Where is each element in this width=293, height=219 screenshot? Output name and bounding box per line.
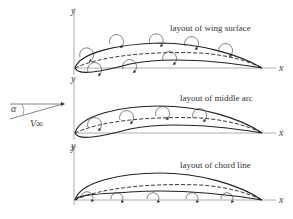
- panel-title: layout of chord line: [180, 160, 251, 170]
- panel-middle-arc: y x y layout of middle arc: [70, 73, 284, 151]
- svg-text:y: y: [70, 142, 76, 153]
- svg-text:y: y: [70, 73, 76, 84]
- panel-title: layout of middle arc: [180, 93, 253, 103]
- svg-text:x: x: [278, 194, 284, 205]
- svg-text:x: x: [278, 62, 284, 73]
- inflow-indicator: α V∞: [10, 103, 63, 129]
- svg-text:x: x: [278, 127, 284, 138]
- svg-text:y: y: [70, 5, 76, 16]
- airfoil-vortex-layout-diagram: α V∞ y x layout of wing surface y x y la…: [0, 0, 293, 219]
- panel-title: layout of wing surface: [170, 23, 251, 33]
- velocity-label: V∞: [30, 118, 43, 129]
- panel-wing-surface: y x layout of wing surface: [70, 5, 284, 75]
- angle-label: α: [11, 103, 17, 114]
- panel-chord-line: y x layout of chord line: [70, 142, 284, 205]
